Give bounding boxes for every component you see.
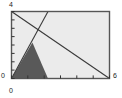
plot-canvas [0, 0, 122, 98]
y-axis-max-label: 4 [9, 1, 13, 8]
chart-figure: 4 0 0 6 [0, 0, 122, 98]
y-axis-min-label: 0 [1, 72, 5, 79]
x-axis-max-label: 6 [113, 72, 117, 79]
x-axis-min-label: 0 [9, 87, 13, 94]
